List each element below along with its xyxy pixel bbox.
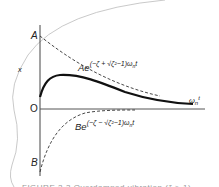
upper-exponent: (−ζ + √ζ²−1)ω <box>90 60 133 67</box>
lower-coef: Be <box>75 121 87 132</box>
origin-label: O <box>30 104 38 114</box>
label-a: A <box>31 31 38 41</box>
label-b: B <box>31 158 38 168</box>
figure-caption: FIGURE 2-3 Overdamped vibration (ζ > 1) <box>22 183 191 187</box>
lower-exponent: (−ζ − √ζ²−1)ω <box>87 119 130 126</box>
upper-curve-label: Ae(−ζ + √ζ²−1)ωnt <box>78 60 137 73</box>
y-axis-label: x <box>18 66 22 74</box>
lower-exponent-tail: t <box>132 119 134 126</box>
upper-coef: Ae <box>78 62 90 73</box>
x-axis-label: ωnt <box>189 95 200 106</box>
upper-exponent-tail: t <box>135 60 137 67</box>
response-curve <box>40 75 193 104</box>
x-axis-t: t <box>198 95 200 101</box>
lower-curve-label: Be(−ζ − √ζ²−1)ωnt <box>75 119 134 132</box>
